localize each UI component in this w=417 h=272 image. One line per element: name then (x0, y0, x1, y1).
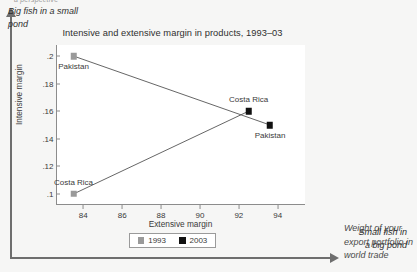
x-axis-tick-label: 88 (157, 211, 166, 220)
legend-label-1993: 1993 (148, 236, 166, 245)
y-axis-tick-mark (56, 166, 60, 167)
x-axis-tick-mark (238, 205, 239, 209)
arrow-right-icon (330, 253, 339, 263)
data-point-costa-rica-2003[interactable] (245, 108, 252, 115)
y-axis-tick-label: .1 (47, 189, 54, 198)
y-axis-tick-mark (56, 193, 60, 194)
annotation-big-fish: Big fish in a small pond (8, 5, 78, 31)
x-axis-tick-label: 90 (196, 211, 205, 220)
x-axis-tick: 92 (234, 205, 243, 220)
data-point-pakistan-1993[interactable] (70, 53, 77, 60)
point-label-pakistan-1993: Pakistan (58, 62, 89, 71)
y-axis-title: Intensive margin (14, 64, 24, 125)
legend-item-1993[interactable]: 1993 (138, 236, 166, 245)
x-axis-tick-label: 86 (118, 211, 127, 220)
plot-area: .1.12.14.16.18.2848688909294PakistanPaki… (56, 45, 305, 205)
legend-box: 19932003 (129, 233, 217, 248)
chart-legend: 19932003 (0, 233, 345, 248)
legend-item-2003[interactable]: 2003 (179, 236, 207, 245)
x-axis-tick-mark (122, 205, 123, 209)
annotation-big-fish-line1: Big fish in a small (8, 6, 78, 16)
x-axis-tick-mark (83, 205, 84, 209)
y-axis-tick-mark (56, 111, 60, 112)
outer-x-axis-line (10, 257, 332, 259)
x-axis-tick-mark (161, 205, 162, 209)
legend-swatch-1993 (138, 237, 145, 244)
x-axis-tick: 94 (273, 205, 282, 220)
y-axis-tick-label: .2 (47, 52, 54, 61)
legend-swatch-2003 (179, 237, 186, 244)
y-axis-tick: .18 (42, 79, 56, 88)
annotation-small-fish-line2: a big pond (365, 240, 407, 250)
x-axis-title: Extensive margin (56, 219, 305, 229)
x-axis-tick-label: 84 (79, 211, 88, 220)
y-axis-tick: .1 (47, 189, 56, 198)
y-axis-tick: .12 (42, 162, 56, 171)
x-axis-tick: 84 (79, 205, 88, 220)
point-label-costa-rica-1993: Costa Rica (54, 178, 93, 187)
x-axis-tick-mark (199, 205, 200, 209)
annotation-big-fish-line2: pond (8, 19, 28, 29)
y-axis-tick: .14 (42, 134, 56, 143)
annotation-small-fish-line1: Small fish in (358, 227, 407, 237)
x-axis-tick: 90 (196, 205, 205, 220)
x-axis-tick-label: 94 (273, 211, 282, 220)
y-axis-tick-mark (56, 56, 60, 57)
legend-label-2003: 2003 (190, 236, 208, 245)
y-axis-tick-mark (56, 138, 60, 139)
y-axis-tick-label: .16 (42, 107, 53, 116)
y-axis-tick-mark (56, 83, 60, 84)
y-axis-tick: .2 (47, 52, 56, 61)
y-axis-tick-label: .14 (42, 134, 53, 143)
x-axis-tick: 86 (118, 205, 127, 220)
x-axis-tick: 88 (157, 205, 166, 220)
plot-inner: .1.12.14.16.18.2848688909294PakistanPaki… (56, 45, 305, 205)
y-axis-tick-label: .18 (42, 79, 53, 88)
y-axis-tick-label: .12 (42, 162, 53, 171)
annotation-small-fish: Small fish in a big pond (358, 226, 407, 252)
point-label-pakistan-2003: Pakistan (255, 131, 286, 140)
x-axis-tick-label: 92 (234, 211, 243, 220)
outer-y-axis-label-clipped: a perspective (14, 0, 58, 3)
point-label-costa-rica-2003: Costa Rica (229, 95, 268, 104)
x-axis-tick-mark (277, 205, 278, 209)
data-point-pakistan-2003[interactable] (267, 122, 274, 129)
outer-y-axis-line (10, 16, 12, 259)
y-axis-tick: .16 (42, 107, 56, 116)
connector-line-costa-rica (74, 111, 249, 194)
data-point-costa-rica-1993[interactable] (70, 191, 77, 198)
